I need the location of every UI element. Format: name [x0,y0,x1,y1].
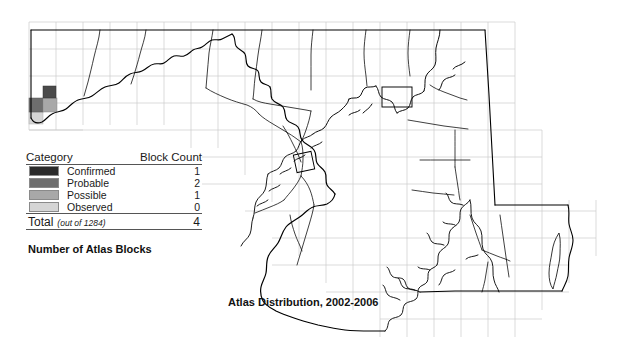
map-legend: Category Block Count Confirmed 1 Probabl… [26,149,202,230]
legend-count-observed: 0 [127,201,202,214]
map-title: Atlas Distribution, 2002-2006 [228,296,378,308]
lower-eastern-shore-shoreline [387,200,499,292]
legend-total-label-cell: Total(out of 1284) [26,214,127,230]
legend-label-confirmed: Confirmed [63,165,127,178]
legend-header-block-count: Block Count [127,149,202,165]
assateague-island [549,233,560,289]
legend-header-row: Category Block Count [26,149,202,165]
block-possible [43,98,57,112]
legend-count-confirmed: 1 [127,165,202,178]
map-figure: Category Block Count Confirmed 1 Probabl… [0,0,629,345]
legend-swatch-confirmed [29,166,59,176]
legend-label-observed: Observed [63,201,127,214]
legend-swatch-probable-cell [26,177,63,189]
washington-dc-outline [293,151,314,172]
legend-total-note: (out of 1284) [53,218,105,228]
legend-total-count: 4 [127,214,202,230]
upper-chesapeake-shoreline [313,30,465,134]
shaded-atlas-blocks [29,86,57,124]
legend-row-confirmed: Confirmed 1 [26,165,202,178]
eastern-shore-boundary [420,30,573,292]
maryland-state-outline [31,30,485,123]
legend-caption: Number of Atlas Blocks [28,243,152,255]
legend-count-probable: 2 [127,177,202,189]
legend-count-possible: 1 [127,189,202,201]
legend-table: Category Block Count Confirmed 1 Probabl… [26,149,202,230]
legend-label-possible: Possible [63,189,127,201]
baltimore-city-outline [382,87,412,107]
legend-swatch-possible-cell [26,189,63,201]
legend-label-probable: Probable [63,177,127,189]
chesapeake-western-shore [383,193,470,331]
legend-swatch-observed [29,202,59,212]
potomac-river-boundary [261,87,385,331]
block-confirmed [43,86,56,98]
legend-total-label: Total [28,215,53,229]
legend-row-probable: Probable 2 [26,177,202,189]
legend-row-possible: Possible 1 [26,189,202,201]
legend-swatch-observed-cell [26,201,63,214]
legend-row-observed: Observed 0 [26,201,202,214]
legend-swatch-confirmed-cell [26,165,63,178]
legend-swatch-possible [29,190,59,200]
legend-swatch-probable [29,178,59,188]
legend-header-category: Category [26,149,127,165]
legend-total-row: Total(out of 1284) 4 [26,214,202,230]
